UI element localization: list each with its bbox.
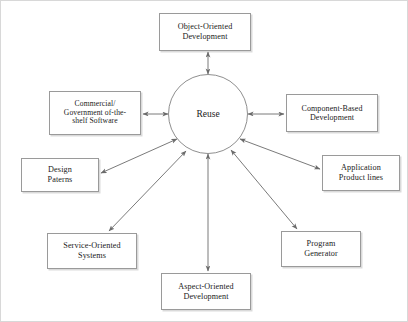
node-design-patterns[interactable]: DesignPaterns — [21, 158, 99, 192]
connector-reuse-to-design-patterns — [101, 139, 177, 173]
node-label-application-product-lines: ApplicationProduct lines — [336, 163, 386, 182]
center-node-reuse[interactable]: Reuse — [168, 74, 248, 154]
node-aspect-oriented-development[interactable]: Aspect-OrientedDevelopment — [161, 273, 251, 310]
node-commercial-government-off-the-shelf-software[interactable]: Commercial/Government of-the-shelf Softw… — [49, 91, 141, 135]
node-label-design-patterns: DesignPaterns — [45, 165, 76, 184]
connector-reuse-to-application-product-lines — [240, 139, 320, 169]
node-service-oriented-systems[interactable]: Service-OrientedSystems — [47, 233, 137, 269]
connector-reuse-to-service-oriented-systems — [109, 151, 186, 231]
node-component-based-development[interactable]: Component-BasedDevelopment — [286, 94, 378, 132]
node-label-component-based-development: Component-BasedDevelopment — [298, 104, 365, 123]
node-application-product-lines[interactable]: ApplicationProduct lines — [322, 155, 400, 191]
node-object-oriented-development[interactable]: Object-OrientedDevelopment — [159, 13, 251, 51]
node-label-object-oriented-development: Object-OrientedDevelopment — [175, 22, 236, 41]
diagram-canvas: Reuse Object-OrientedDevelopmentCommerci… — [0, 0, 408, 322]
node-label-program-generator: ProgramGenerator — [301, 239, 341, 258]
node-label-aspect-oriented-development: Aspect-OrientedDevelopment — [175, 282, 237, 301]
node-label-commercial-government-off-the-shelf-software: Commercial/Government of-the-shelf Softw… — [61, 100, 129, 127]
node-program-generator[interactable]: ProgramGenerator — [281, 231, 361, 267]
center-node-label: Reuse — [196, 109, 219, 119]
node-label-service-oriented-systems: Service-OrientedSystems — [60, 241, 124, 260]
connector-reuse-to-program-generator — [231, 150, 297, 229]
